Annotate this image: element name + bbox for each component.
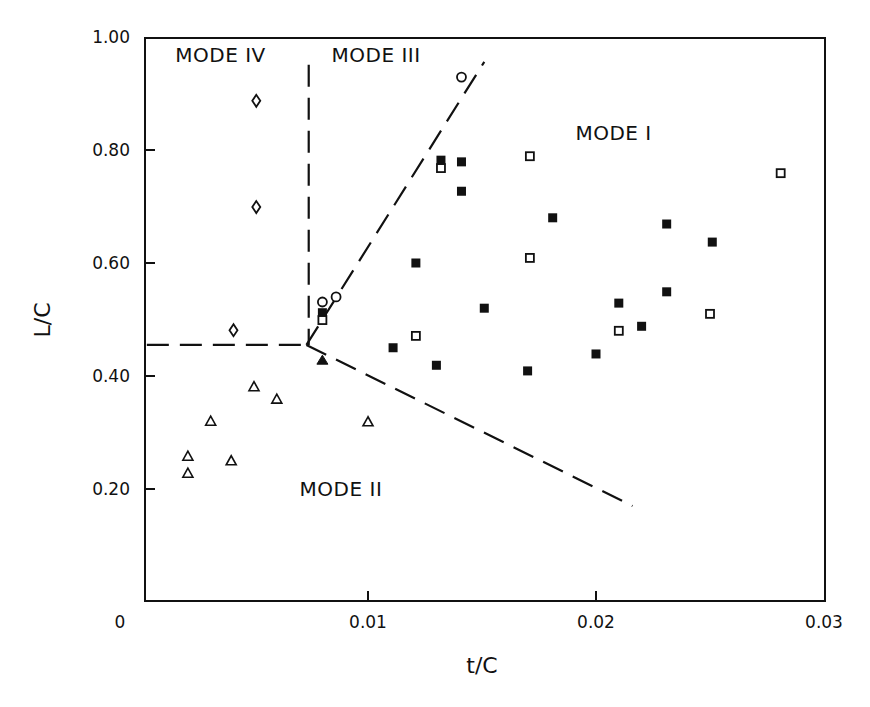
y-tick-label: 0.20 xyxy=(92,479,130,499)
square-open-marker xyxy=(526,254,534,262)
triangle-open-marker xyxy=(249,382,259,391)
circle-open-marker xyxy=(318,297,327,306)
y-tick-label: 0.40 xyxy=(92,366,130,386)
y-axis-title: L/C xyxy=(30,302,55,337)
data-points xyxy=(183,73,785,478)
diamond-open-marker xyxy=(229,324,237,336)
diamond-open-marker xyxy=(252,95,260,107)
x-axis-title: t/C xyxy=(466,653,497,678)
square-open-marker xyxy=(706,310,714,318)
x-tick-label: 0.01 xyxy=(349,612,387,632)
square-filled-marker xyxy=(637,322,646,331)
square-open-marker xyxy=(437,164,445,172)
square-open-marker xyxy=(615,327,623,335)
y-tick-label: 0.80 xyxy=(92,140,130,160)
square-filled-marker xyxy=(592,349,601,358)
diamond-open-marker xyxy=(252,201,260,213)
circle-open-marker xyxy=(332,292,341,301)
mode-labels: MODE IVMODE IIIMODE IMODE II xyxy=(175,43,651,500)
triangle-open-marker xyxy=(272,394,282,403)
square-filled-marker xyxy=(548,213,557,222)
square-filled-marker xyxy=(480,304,489,313)
square-filled-marker xyxy=(523,366,532,375)
square-filled-marker xyxy=(389,343,398,352)
scatter-chart: 00.010.020.03 0.200.400.600.801.00 MODE … xyxy=(0,0,870,707)
y-tick-label: 1.00 xyxy=(92,27,130,47)
y-tick-label: 0.60 xyxy=(92,253,130,273)
triangle-open-marker xyxy=(183,451,193,460)
square-open-marker xyxy=(412,332,420,340)
circle-open-marker xyxy=(457,73,466,82)
triangle-open-marker xyxy=(206,416,216,425)
label-mode-iv: MODE IV xyxy=(175,43,265,67)
triangle-open-marker xyxy=(363,417,373,426)
mode-boundary-lines xyxy=(147,62,633,506)
label-mode-ii: MODE II xyxy=(300,477,383,501)
label-mode-i: MODE I xyxy=(575,121,651,145)
x-tick-label: 0.03 xyxy=(805,612,843,632)
square-open-marker xyxy=(318,316,326,324)
label-mode-iii: MODE III xyxy=(332,43,421,67)
square-filled-marker xyxy=(432,361,441,370)
x-axis-ticks: 00.010.020.03 xyxy=(115,591,843,632)
square-open-marker xyxy=(777,169,785,177)
upper-diagonal-boundary xyxy=(306,62,484,345)
square-filled-marker xyxy=(614,299,623,308)
plot-frame xyxy=(145,38,825,601)
square-filled-marker xyxy=(457,187,466,196)
square-filled-marker xyxy=(457,157,466,166)
triangle-filled-marker xyxy=(317,355,328,364)
triangle-open-marker xyxy=(226,456,236,465)
x-tick-label: 0 xyxy=(115,612,126,632)
triangle-open-marker xyxy=(183,468,193,477)
square-filled-marker xyxy=(662,220,671,229)
x-tick-label: 0.02 xyxy=(577,612,615,632)
square-filled-marker xyxy=(411,259,420,268)
square-filled-marker xyxy=(708,238,717,247)
square-filled-marker xyxy=(662,287,671,296)
square-open-marker xyxy=(526,152,534,160)
